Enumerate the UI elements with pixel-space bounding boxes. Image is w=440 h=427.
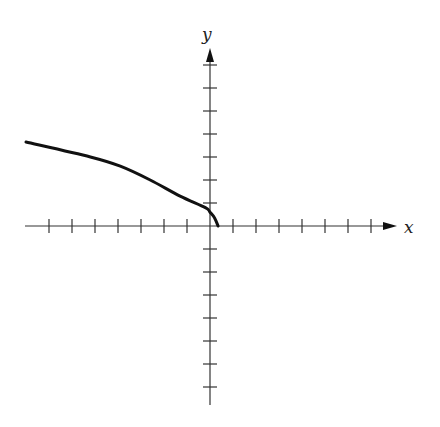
graph: x y	[0, 0, 440, 427]
function-curve	[26, 142, 218, 226]
axes	[25, 48, 397, 405]
y-axis-arrow-icon	[206, 48, 214, 62]
x-axis-arrow-icon	[383, 222, 397, 230]
x-axis-label: x	[404, 217, 414, 237]
y-axis-label: y	[201, 24, 212, 44]
